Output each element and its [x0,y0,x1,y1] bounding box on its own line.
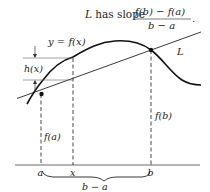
line-label-L: L [176,46,184,57]
hx-label: h(x) [24,63,43,74]
hx-arrowhead-top-icon [33,54,37,58]
caption-period: . [192,13,195,24]
mean-value-diagram: L has slope f(b) − f(a) b − a . y = f(x)… [0,0,210,192]
caption-numerator: f(b) − f(a) [134,6,185,17]
tick-b: b [148,167,154,178]
function-curve [27,41,201,104]
brace-b-minus-a [42,171,150,181]
tick-a: a [38,167,44,178]
point-b [149,48,153,52]
fa-label: f(a) [43,131,61,142]
point-a [39,92,43,96]
curve-label: y = f(x) [47,36,86,47]
caption-denominator: b − a [148,20,175,31]
hx-arrowhead-bottom-icon [33,80,37,84]
caption-var-L: L [84,8,92,20]
fb-label: f(b) [154,110,172,121]
tick-x: x [70,167,76,178]
brace-label: b − a [82,181,108,192]
